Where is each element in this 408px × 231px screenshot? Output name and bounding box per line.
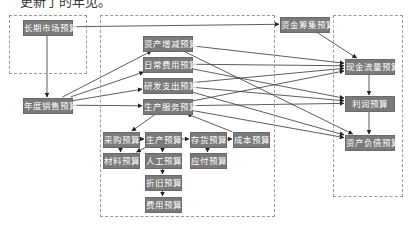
node-material: 材料预算	[103, 153, 140, 169]
node-depreciation: 折旧预算	[145, 175, 182, 191]
node-production: 生产预算	[145, 132, 182, 148]
node-cash-flow: 现金流量预算	[345, 59, 395, 75]
node-profit: 利润预算	[345, 96, 395, 112]
node-inventory: 存货预算	[190, 132, 227, 148]
node-procurement: 采购预算	[103, 132, 140, 148]
node-asset-change: 资产增减预算	[143, 36, 193, 52]
node-payable: 应付预算	[190, 153, 227, 169]
node-annual-sales: 年度销售预算	[23, 98, 73, 114]
node-expense: 费用预算	[145, 197, 182, 213]
node-rd-expense: 研发支出预算	[143, 78, 193, 94]
node-balance-sheet: 资产负债预算	[345, 135, 395, 151]
node-cost: 成本预算	[233, 132, 270, 148]
node-daily-expense: 日常费用预算	[143, 57, 193, 73]
node-labor: 人工预算	[145, 153, 182, 169]
node-production-service: 生产服务预算	[143, 99, 193, 115]
node-long-market: 长期市场预算	[23, 20, 73, 36]
node-fund-raising: 资金筹集预算	[280, 17, 330, 33]
